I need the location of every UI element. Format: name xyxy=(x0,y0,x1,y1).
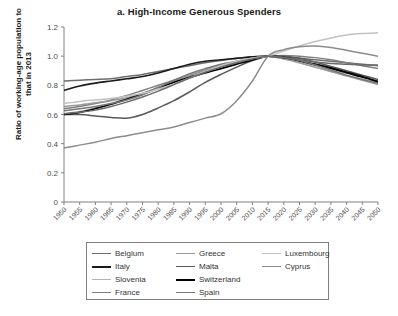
chart-legend: BelgiumGreeceLuxembourgItalyMaltaCyprusS… xyxy=(86,242,329,300)
x-tick-label: 2040 xyxy=(334,206,350,222)
legend-item-switzerland[interactable]: Switzerland xyxy=(176,275,262,284)
x-tick-label: 1975 xyxy=(130,206,146,222)
x-tick-label: 2035 xyxy=(319,206,335,222)
legend-label: Belgium xyxy=(115,249,144,258)
legend-swatch xyxy=(176,266,195,267)
legend-item-malta[interactable]: Malta xyxy=(176,262,262,271)
series-line-spain xyxy=(64,56,378,111)
legend-swatch xyxy=(92,253,111,254)
y-tick-label: 0.6 xyxy=(47,111,59,120)
legend-label: Slovenia xyxy=(115,275,146,284)
legend-swatch xyxy=(176,279,195,281)
legend-label: Malta xyxy=(199,262,219,271)
legend-swatch xyxy=(262,253,281,254)
legend-item-greece[interactable]: Greece xyxy=(176,249,262,258)
legend-item-italy[interactable]: Italy xyxy=(92,262,176,271)
legend-item-france[interactable]: France xyxy=(92,288,176,297)
x-tick-label: 1990 xyxy=(177,206,193,222)
x-tick-label: 1980 xyxy=(146,206,162,222)
y-tick-label: 0.4 xyxy=(47,140,59,149)
legend-swatch xyxy=(92,292,111,293)
x-tick-label: 1970 xyxy=(115,206,131,222)
x-tick-label: 2020 xyxy=(272,206,288,222)
legend-label: Luxembourg xyxy=(285,249,329,258)
legend-label: Greece xyxy=(199,249,225,258)
x-tick-label: 1985 xyxy=(162,206,178,222)
x-tick-label: 2050 xyxy=(366,206,382,222)
legend-item-luxembourg[interactable]: Luxembourg xyxy=(262,249,334,258)
x-tick-label: 2030 xyxy=(303,206,319,222)
x-tick-label: 2005 xyxy=(224,206,240,222)
legend-label: Italy xyxy=(115,262,130,271)
legend-swatch xyxy=(92,266,111,268)
legend-swatch xyxy=(176,253,195,254)
x-tick-label: 2015 xyxy=(256,206,272,222)
series-group xyxy=(64,33,378,148)
legend-swatch xyxy=(262,266,281,267)
y-tick-label: 1.2 xyxy=(47,23,59,32)
x-tick-label: 1965 xyxy=(99,206,115,222)
legend-item-slovenia[interactable]: Slovenia xyxy=(92,275,176,284)
legend-grid: BelgiumGreeceLuxembourgItalyMaltaCyprusS… xyxy=(92,247,323,299)
x-tick-label: 1995 xyxy=(193,206,209,222)
x-tick-label: 2045 xyxy=(350,206,366,222)
x-tick-label: 1955 xyxy=(67,206,83,222)
legend-swatch xyxy=(176,292,195,293)
legend-label: France xyxy=(115,288,140,297)
chart-container: a. High-Income Generous Spenders Ratio o… xyxy=(0,0,398,316)
y-tick-label: 0 xyxy=(54,198,59,207)
legend-item-belgium[interactable]: Belgium xyxy=(92,249,176,258)
x-tick-label: 2000 xyxy=(209,206,225,222)
y-tick-label: 0.8 xyxy=(47,81,59,90)
legend-item-spain[interactable]: Spain xyxy=(176,288,262,297)
x-tick-label: 2025 xyxy=(287,206,303,222)
legend-label: Spain xyxy=(199,288,219,297)
legend-label: Switzerland xyxy=(199,275,240,284)
legend-label: Cyprus xyxy=(285,262,310,271)
y-tick-label: 0.2 xyxy=(47,169,59,178)
y-tick-label: 1.0 xyxy=(47,52,59,61)
legend-item-cyprus[interactable]: Cyprus xyxy=(262,262,334,271)
x-tick-label: 2010 xyxy=(240,206,256,222)
x-tick-label: 1950 xyxy=(52,206,68,222)
legend-swatch xyxy=(92,279,111,280)
x-tick-label: 1960 xyxy=(83,206,99,222)
